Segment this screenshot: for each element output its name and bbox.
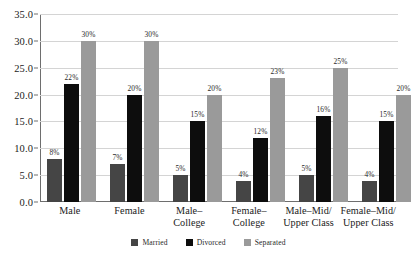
bar-slot: 30% (81, 14, 96, 202)
bar-value-label: 30% (82, 30, 96, 39)
y-axis-tick-mark (34, 94, 38, 95)
bar-value-label: 4% (364, 170, 374, 179)
bar-slot: 15% (190, 14, 205, 202)
bar-slot: 15% (379, 14, 394, 202)
bar-slot: 4% (236, 14, 251, 202)
bar-slot: 5% (299, 14, 314, 202)
legend-item-separated[interactable]: Separated (244, 238, 286, 247)
bar-group: 7%20%30% (103, 14, 166, 202)
legend-swatch-icon (186, 239, 193, 246)
bar-slot: 8% (47, 14, 62, 202)
bar-slot: 30% (144, 14, 159, 202)
bar-value-label: 25% (334, 57, 348, 66)
bar-value-label: 12% (254, 127, 268, 136)
legend-item-divorced[interactable]: Divorced (186, 238, 226, 247)
bar-divorced[interactable]: 12% (253, 138, 268, 202)
bar-value-label: 5% (301, 164, 311, 173)
bar-slot: 4% (362, 14, 377, 202)
bar-slot: 12% (253, 14, 268, 202)
y-axis-tick-label: 25.0 (14, 62, 33, 73)
bar-divorced[interactable]: 16% (316, 116, 331, 202)
bar-divorced[interactable]: 22% (64, 84, 79, 202)
x-axis-category-label: Female (100, 205, 160, 228)
y-axis-tick-mark (34, 40, 38, 41)
bar-value-label: 20% (208, 84, 222, 93)
y-axis-tick-mark (34, 202, 38, 203)
bar-married[interactable]: 5% (173, 175, 188, 202)
y-axis-tick-mark (34, 67, 38, 68)
legend-item-married[interactable]: Married (131, 238, 167, 247)
gridline (40, 202, 398, 203)
y-axis-tick-label: 30.0 (14, 35, 33, 46)
bar-value-label: 15% (191, 110, 205, 119)
y-axis-tick-label: 5.0 (20, 170, 33, 181)
bar-separated[interactable]: 23% (270, 78, 285, 202)
bar-slot: 22% (64, 14, 79, 202)
bar-slot: 16% (316, 14, 331, 202)
bar-separated[interactable]: 25% (333, 68, 348, 202)
grouped-bar-chart: 0.05.010.015.020.025.030.035.0 8%22%30%7… (0, 0, 417, 259)
bar-divorced[interactable]: 15% (379, 121, 394, 202)
bar-value-label: 8% (49, 148, 59, 157)
bar-separated[interactable]: 30% (81, 41, 96, 202)
bar-separated[interactable]: 20% (396, 95, 411, 202)
y-axis-tick-mark (34, 148, 38, 149)
bar-group: 4%12%23% (229, 14, 292, 202)
bar-married[interactable]: 8% (47, 159, 62, 202)
bar-value-label: 23% (271, 67, 285, 76)
y-axis-tick-label: 20.0 (14, 89, 33, 100)
x-axis-category-label: Male (40, 205, 100, 228)
x-axis-category-label: Male– College (159, 205, 219, 228)
bar-value-label: 4% (238, 170, 248, 179)
y-axis-tick-label: 35.0 (14, 9, 33, 20)
legend-swatch-icon (244, 239, 251, 246)
bar-married[interactable]: 4% (236, 181, 251, 202)
x-axis-category-label: Female– College (219, 205, 279, 228)
bar-value-label: 7% (112, 153, 122, 162)
legend-label: Married (142, 238, 167, 247)
bar-value-label: 20% (397, 84, 411, 93)
x-axis-category-label: Female–Mid/ Upper Class (338, 205, 398, 228)
bar-group: 5%16%25% (292, 14, 355, 202)
bar-separated[interactable]: 30% (144, 41, 159, 202)
bar-group: 4%15%20% (355, 14, 417, 202)
y-axis-tick-label: 10.0 (14, 143, 33, 154)
legend-label: Separated (255, 238, 286, 247)
bar-married[interactable]: 5% (299, 175, 314, 202)
bar-value-label: 30% (145, 30, 159, 39)
bar-value-label: 5% (175, 164, 185, 173)
bar-divorced[interactable]: 15% (190, 121, 205, 202)
y-axis-tick-mark (34, 175, 38, 176)
legend-swatch-icon (131, 239, 138, 246)
bar-value-label: 20% (128, 84, 142, 93)
y-axis-tick-mark (34, 121, 38, 122)
bar-group: 8%22%30% (40, 14, 103, 202)
bar-value-label: 15% (380, 110, 394, 119)
y-axis-tick-label: 0.0 (20, 197, 33, 208)
bar-value-label: 16% (317, 105, 331, 114)
y-axis: 0.05.010.015.020.025.030.035.0 (0, 14, 38, 202)
plot-wrapper: 8%22%30%7%20%30%5%15%20%4%12%23%5%16%25%… (40, 14, 398, 202)
bar-slot: 5% (173, 14, 188, 202)
bar-slot: 25% (333, 14, 348, 202)
x-axis-category-label: Male–Mid/ Upper Class (279, 205, 339, 228)
bar-value-label: 22% (65, 73, 79, 82)
y-axis-tick-mark (34, 14, 38, 15)
bar-married[interactable]: 7% (110, 164, 125, 202)
bar-divorced[interactable]: 20% (127, 95, 142, 202)
bar-slot: 20% (207, 14, 222, 202)
legend-label: Divorced (197, 238, 226, 247)
x-axis-labels: MaleFemaleMale– CollegeFemale– CollegeMa… (40, 205, 398, 228)
bar-slot: 20% (396, 14, 411, 202)
chart-legend: MarriedDivorcedSeparated (0, 238, 417, 247)
bar-separated[interactable]: 20% (207, 95, 222, 202)
bar-slot: 20% (127, 14, 142, 202)
y-axis-tick-label: 15.0 (14, 116, 33, 127)
bar-married[interactable]: 4% (362, 181, 377, 202)
bar-groups: 8%22%30%7%20%30%5%15%20%4%12%23%5%16%25%… (40, 14, 398, 202)
bar-group: 5%15%20% (166, 14, 229, 202)
bar-slot: 23% (270, 14, 285, 202)
bar-slot: 7% (110, 14, 125, 202)
